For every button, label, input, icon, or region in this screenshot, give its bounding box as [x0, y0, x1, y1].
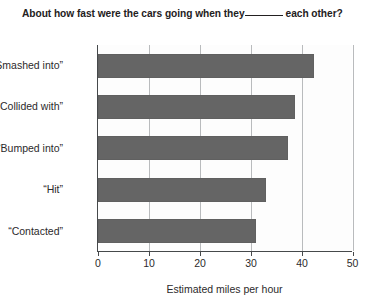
bar-smashed-into[interactable] [98, 54, 314, 78]
bar-row-collided-with [98, 86, 352, 127]
xtick-50 [353, 252, 354, 256]
xtick-label-40: 40 [296, 257, 308, 269]
bar-bumped-into[interactable] [98, 136, 288, 160]
chart-title-text: About how fast were the cars going when … [22, 8, 245, 19]
y-label-smashed-into: “Smashed into” [0, 45, 63, 86]
y-label-contacted: “Contacted” [8, 211, 63, 252]
xtick-30 [251, 252, 252, 256]
title-blank-rule [245, 15, 283, 16]
plot-area: “Smashed into” “Collided with” “Bumped i… [97, 45, 352, 252]
xtick-label-50: 50 [347, 257, 359, 269]
bar-hit[interactable] [98, 178, 266, 202]
xtick-0 [98, 252, 99, 256]
xtick-label-10: 10 [143, 257, 155, 269]
bar-row-contacted [98, 211, 352, 252]
y-label-collided-with: “Collided with” [0, 86, 63, 127]
x-axis-title: Estimated miles per hour [97, 283, 352, 295]
xtick-40 [302, 252, 303, 256]
bar-row-bumped-into [98, 128, 352, 169]
xtick-10 [149, 252, 150, 256]
xtick-label-30: 30 [245, 257, 257, 269]
xtick-label-20: 20 [194, 257, 206, 269]
xtick-label-0: 0 [95, 257, 101, 269]
chart-title: About how fast were the cars going when … [22, 8, 367, 19]
bar-collided-with[interactable] [98, 95, 295, 119]
bar-row-hit [98, 169, 352, 210]
xtick-20 [200, 252, 201, 256]
bar-contacted[interactable] [98, 219, 256, 243]
y-label-bumped-into: “Bumped into” [0, 128, 63, 169]
chart-title-suffix: each other? [286, 8, 343, 19]
gridline-50 [353, 45, 354, 251]
y-label-hit: “Hit” [43, 169, 63, 210]
bar-row-smashed-into [98, 45, 352, 86]
